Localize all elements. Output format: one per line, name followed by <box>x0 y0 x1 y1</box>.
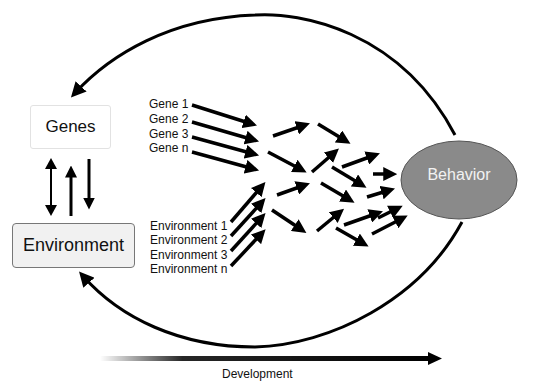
development-axis-arrow <box>100 352 442 365</box>
environment-input-label: Environment n <box>150 262 227 276</box>
genes-node: Genes <box>30 105 111 149</box>
genes-node-label: Genes <box>45 117 95 137</box>
gene-input-arrows <box>192 105 254 169</box>
environment-input-arrows <box>231 186 262 266</box>
environment-node-label: Environment <box>23 235 124 256</box>
feedback-arc-top <box>75 15 455 135</box>
behavior-node-label: Behavior <box>404 166 514 184</box>
environment-input-label: Environment 1 <box>150 219 227 233</box>
gene-environment-interaction-arrows <box>45 158 89 216</box>
diagram-canvas <box>0 0 534 385</box>
gene-input-label: Gene 2 <box>149 112 188 126</box>
gene-input-label: Gene 3 <box>149 127 188 141</box>
development-axis-label: Development <box>222 367 293 381</box>
gene-input-label: Gene 1 <box>149 97 188 111</box>
interaction-network-arrows <box>268 124 403 244</box>
environment-input-label: Environment 3 <box>150 248 227 262</box>
feedback-arc-bottom <box>83 222 462 347</box>
gene-input-label: Gene n <box>149 141 188 155</box>
environment-input-label: Environment 2 <box>150 233 227 247</box>
environment-node: Environment <box>12 223 135 268</box>
